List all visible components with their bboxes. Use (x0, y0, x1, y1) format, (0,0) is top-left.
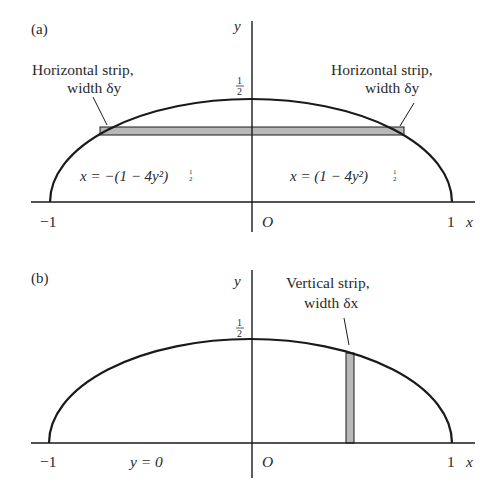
tick-1: 1 (447, 213, 455, 230)
origin-label: O (262, 213, 273, 230)
strip-label-left-2: width δy (67, 79, 121, 96)
equation-right-exp-den: 2 (393, 175, 397, 183)
x-axis-label: x (465, 453, 473, 470)
tick-neg1: −1 (40, 453, 57, 470)
leader-line-left (93, 97, 107, 125)
strip-label-right-1: Horizontal strip, (331, 61, 433, 78)
equation-left-exp-den: 2 (189, 175, 193, 183)
strip-label-left-1: Horizontal strip, (32, 61, 134, 78)
panel-label-b: (b) (31, 270, 49, 287)
vertical-strip (346, 353, 354, 443)
half-tick-den: 2 (237, 86, 242, 97)
tick-neg1: −1 (40, 213, 57, 230)
leader-line-right (400, 103, 414, 126)
equation-right: x = (1 − 4y²) (289, 168, 368, 185)
strip-label-right-2: width δy (365, 79, 419, 96)
x-axis-label: x (465, 213, 473, 230)
leader-line (344, 318, 349, 345)
strip-label-1: Vertical strip, (286, 274, 370, 291)
ellipse-curve (49, 339, 452, 443)
half-tick-num: 1 (237, 317, 242, 328)
equation-left: x = −(1 − 4y²) (79, 168, 168, 185)
panel-b: (b) y 1 2 Vertical strip, width δx −1 y … (31, 270, 475, 478)
strip-label-2: width δx (304, 294, 358, 311)
ellipse-curve (50, 99, 452, 202)
half-tick-num: 1 (237, 75, 242, 86)
y-axis-label: y (232, 18, 241, 34)
panel-a: (a) y 1 2 Horizontal strip, width δy Hor… (31, 18, 475, 232)
axis-equation: y = 0 (128, 453, 163, 470)
y-axis-label: y (232, 273, 241, 289)
origin-label: O (262, 453, 273, 470)
half-tick-den: 2 (237, 328, 242, 339)
panel-label-a: (a) (31, 21, 48, 38)
tick-1: 1 (447, 453, 455, 470)
